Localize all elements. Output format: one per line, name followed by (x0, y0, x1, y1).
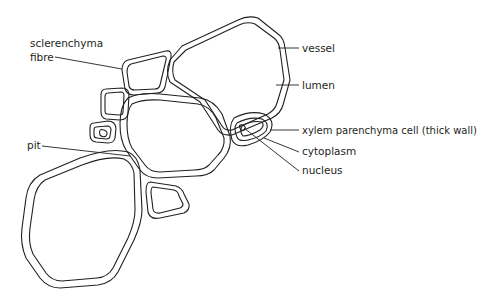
leader-sclerenchyma-fibre (55, 57, 122, 69)
label-sclerenchyma: sclerenchyma (30, 37, 103, 50)
label-fibre: fibre (30, 51, 54, 64)
small-fibre-cell (101, 88, 129, 120)
label-nucleus: nucleus (302, 164, 343, 177)
leader-pit (42, 146, 130, 156)
label-pit: pit (27, 139, 41, 152)
central-vessel-cell (120, 94, 230, 179)
label-xylem-parenchyma: xylem parenchyma cell (thick wall) (302, 124, 477, 137)
bottom-fibre-cell (146, 182, 189, 218)
vessel-cell (168, 17, 291, 135)
sclerenchyma-fibre-cell (122, 51, 171, 95)
label-cytoplasm: cytoplasm (302, 145, 356, 158)
large-vessel-cell (22, 150, 143, 288)
leader-nucleus (244, 128, 299, 171)
label-vessel: vessel (302, 42, 335, 55)
xylem-parenchyma-cell (230, 113, 272, 146)
xylem-diagram: sclerenchyma fibre vessel lumen xylem pa… (0, 0, 490, 300)
leader-cytoplasm (264, 138, 299, 152)
label-lumen: lumen (302, 79, 335, 92)
small-parenchyma-cell (90, 121, 116, 143)
